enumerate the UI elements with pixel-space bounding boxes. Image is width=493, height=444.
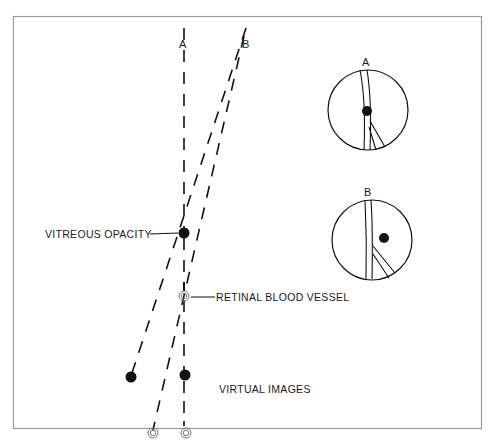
vitreous-opacity-label: VITREOUS OPACITY [45,228,152,240]
figure-frame [14,17,482,429]
virtual-images-label: VIRTUAL IMAGES [219,383,311,395]
virtual-image-vessel-a-outer [181,428,191,438]
ray-a-label: A [179,38,187,50]
virtual-image-vessel-a-inner [183,430,189,436]
inset-b-opacity-dot [379,233,389,243]
ray-b-label: B [242,38,250,50]
ray-b-line-1 [131,28,246,376]
inset-b [332,200,412,280]
inset-b-label: B [364,186,372,198]
vitreous-opacity-leader [150,233,178,234]
inset-b-vessel-branch [373,246,395,278]
vitreous-opacity-dot [179,228,190,239]
virtual-image-vessel-b-inner [150,430,156,436]
inset-a-vessel-branch [369,121,385,150]
retinal-blood-vessel-label: RETINAL BLOOD VESSEL [216,291,349,303]
inset-b-vessel [365,200,372,279]
diagram-figure: A B A B VITREOUS OPACITY RETINAL BLOOD V… [0,0,493,444]
inset-a [328,70,408,150]
virtual-image-opacity-a [180,370,191,381]
inset-a-label: A [362,56,370,68]
virtual-image-opacity-b [126,372,137,383]
inset-a-opacity-dot [362,106,372,116]
diagram-canvas [0,0,493,444]
